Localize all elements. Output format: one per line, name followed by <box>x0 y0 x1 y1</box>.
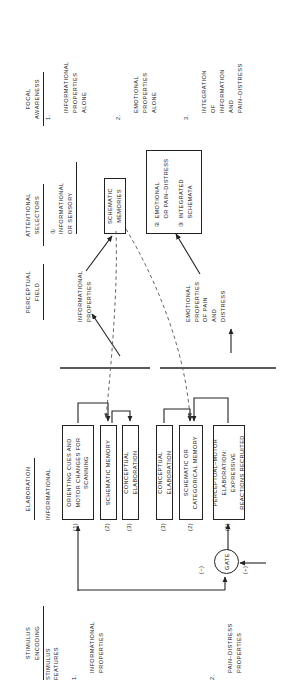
connector-layer <box>0 0 294 686</box>
arrow-emotional-to-grouped-box <box>176 234 200 274</box>
arrow-box4-to-box5 <box>164 409 190 423</box>
arrow-box2-to-box3 <box>112 411 130 423</box>
dashed-feedback-to-box5 <box>126 229 190 418</box>
arrow-box1-to-box2 <box>78 403 108 423</box>
arrow-elab-to-informational-properties <box>92 314 120 356</box>
diagram-canvas: STIMULUS ENCODING ELABORATION PERCEPTUAL… <box>0 0 294 686</box>
dashed-feedback-to-box2 <box>106 231 116 418</box>
arrow-box6-to-box5 <box>194 398 228 423</box>
figure-viewport: STIMULUS ENCODING ELABORATION PERCEPTUAL… <box>0 0 294 686</box>
arrow-informational-to-selector1 <box>86 236 112 271</box>
